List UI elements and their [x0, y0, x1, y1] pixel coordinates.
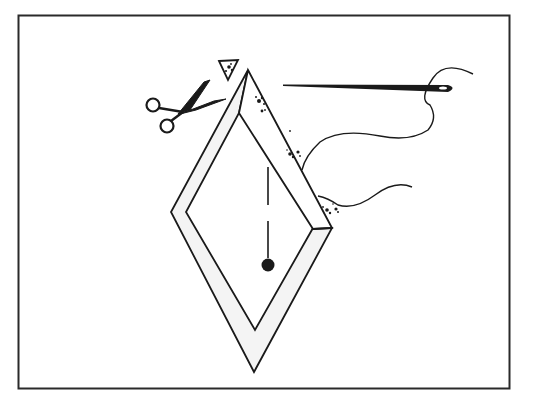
diamond-frame	[171, 70, 332, 372]
trimmed-triangle	[219, 60, 238, 80]
illustration	[0, 0, 556, 401]
scissors-icon	[147, 80, 227, 133]
center-line	[262, 167, 275, 272]
